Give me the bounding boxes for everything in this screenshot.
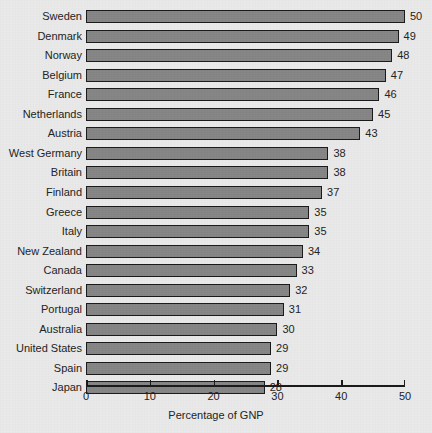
bar-value-label: 34: [308, 245, 320, 258]
category-label: Greece: [2, 206, 82, 219]
bar-row: Finland37: [0, 186, 432, 206]
x-axis-title: Percentage of GNP: [0, 409, 432, 421]
bar-value-label: 43: [365, 127, 377, 140]
category-label: Austria: [2, 127, 82, 140]
bar-row: Sweden50: [0, 10, 432, 30]
x-axis-tick: [277, 380, 279, 385]
bar-row: West Germany38: [0, 147, 432, 167]
bar: [86, 10, 405, 23]
bar-chart: Sweden50Denmark49Norway48Belgium47France…: [0, 0, 432, 433]
bar-row: Greece35: [0, 206, 432, 226]
category-label: Sweden: [2, 10, 82, 23]
bar-value-label: 37: [327, 186, 339, 199]
bar-row: Denmark49: [0, 30, 432, 50]
category-label: France: [2, 88, 82, 101]
bar-row: Spain29: [0, 362, 432, 382]
category-label: Norway: [2, 49, 82, 62]
x-axis-tick-label: 0: [66, 390, 106, 403]
bar-value-label: 33: [302, 264, 314, 277]
bar: [86, 342, 271, 355]
bar-row: Britain38: [0, 166, 432, 186]
bar: [86, 69, 386, 82]
bar-value-label: 50: [410, 10, 422, 23]
category-label: Britain: [2, 166, 82, 179]
x-axis-line: [86, 385, 405, 387]
bar-value-label: 30: [282, 323, 294, 336]
bar: [86, 166, 328, 179]
bar-value-label: 35: [314, 225, 326, 238]
bar: [86, 303, 284, 316]
bar-row: Canada33: [0, 264, 432, 284]
category-label: West Germany: [2, 147, 82, 160]
bar-value-label: 48: [397, 49, 409, 62]
x-axis-tick-label: 40: [321, 390, 361, 403]
bar: [86, 264, 297, 277]
category-label: Switzerland: [2, 284, 82, 297]
bar-row: United States29: [0, 342, 432, 362]
bar: [86, 381, 265, 394]
bar-row: Italy35: [0, 225, 432, 245]
bar-value-label: 35: [314, 206, 326, 219]
category-label: Australia: [2, 323, 82, 336]
bar-row: New Zealand34: [0, 245, 432, 265]
bar: [86, 225, 309, 238]
bar-row: Australia30: [0, 323, 432, 343]
bar-value-label: 38: [333, 166, 345, 179]
x-axis-tick: [341, 380, 343, 385]
bar-value-label: 29: [276, 362, 288, 375]
bar: [86, 30, 399, 43]
bar-value-label: 31: [289, 303, 301, 316]
bar-value-label: 45: [378, 108, 390, 121]
x-axis-tick-label: 50: [385, 390, 425, 403]
bar-row: France46: [0, 88, 432, 108]
x-axis-tick: [150, 380, 152, 385]
x-axis-tick-label: 20: [194, 390, 234, 403]
bar-value-label: 49: [404, 30, 416, 43]
category-label: Netherlands: [2, 108, 82, 121]
category-label: Spain: [2, 362, 82, 375]
bar: [86, 284, 290, 297]
category-label: New Zealand: [2, 245, 82, 258]
x-axis-tick: [86, 380, 88, 385]
x-axis-tick-label: 30: [257, 390, 297, 403]
category-label: Canada: [2, 264, 82, 277]
category-label: United States: [2, 342, 82, 355]
x-axis-tick-label: 10: [130, 390, 170, 403]
bar: [86, 323, 277, 336]
bar-row: Switzerland32: [0, 284, 432, 304]
bar-row: Portugal31: [0, 303, 432, 323]
bar: [86, 245, 303, 258]
bar-value-label: 38: [333, 147, 345, 160]
bar-row: Netherlands45: [0, 108, 432, 128]
bar-row: Belgium47: [0, 69, 432, 89]
bar: [86, 206, 309, 219]
bar: [86, 49, 392, 62]
category-label: Italy: [2, 225, 82, 238]
x-axis-tick: [214, 380, 216, 385]
bar: [86, 362, 271, 375]
bar: [86, 147, 328, 160]
bar-value-label: 46: [384, 88, 396, 101]
bar-value-label: 29: [276, 342, 288, 355]
x-axis-tick: [404, 380, 406, 385]
bar: [86, 88, 379, 101]
bar: [86, 108, 373, 121]
category-label: Finland: [2, 186, 82, 199]
category-label: Belgium: [2, 69, 82, 82]
category-label: Portugal: [2, 303, 82, 316]
bar: [86, 186, 322, 199]
bar-value-label: 47: [391, 69, 403, 82]
bar-value-label: 32: [295, 284, 307, 297]
category-label: Denmark: [2, 30, 82, 43]
bar-row: Norway48: [0, 49, 432, 69]
bar-row: Austria43: [0, 127, 432, 147]
bar: [86, 127, 360, 140]
